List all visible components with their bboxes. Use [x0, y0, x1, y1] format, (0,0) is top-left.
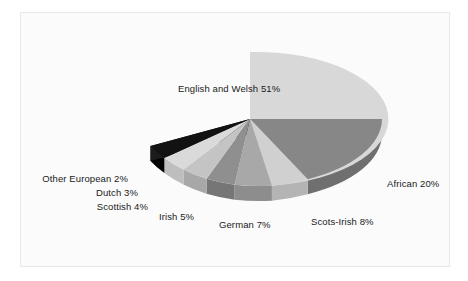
label-irish: Irish 5%: [159, 211, 194, 222]
label-african: African 20%: [387, 178, 439, 189]
label-scottish: Scottish 4%: [38, 201, 148, 212]
label-other-european: Other European 2%: [12, 173, 128, 184]
slice-side-german: [235, 185, 272, 201]
figure: English and Welsh 51% African 20% Scots-…: [0, 0, 468, 281]
pie-chart: [0, 0, 468, 281]
label-german: German 7%: [219, 219, 271, 230]
label-scots-irish: Scots-Irish 8%: [311, 216, 374, 227]
label-english-and-welsh: English and Welsh 51%: [178, 83, 280, 94]
label-dutch: Dutch 3%: [28, 187, 138, 198]
